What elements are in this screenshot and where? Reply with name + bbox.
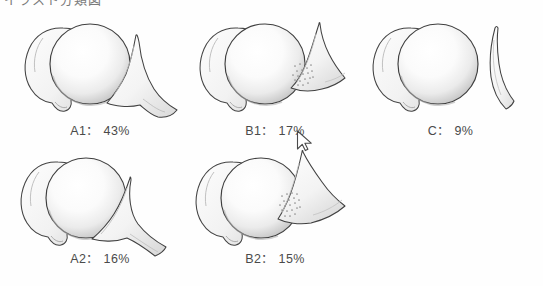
labrum-shape-c — [490, 27, 514, 110]
panel-b1[interactable]: B1： 17% — [185, 16, 365, 138]
panel-a2-label: A2： 16% — [10, 248, 190, 267]
panel-b2-label: B2： 15% — [185, 248, 365, 267]
femoral-head-sphere-b1 — [225, 24, 305, 105]
panel-b2-illustration — [185, 150, 365, 258]
panel-b2[interactable]: B2： 15% — [185, 150, 365, 275]
figure-root: イラスト分類図 — [0, 0, 543, 286]
panel-a2[interactable]: A2： 16% — [10, 150, 190, 275]
femoral-head-sphere-c — [398, 24, 478, 105]
panel-b1-label: B1： 17% — [185, 120, 365, 139]
panel-a1-illustration — [10, 16, 190, 122]
panel-c[interactable]: C： 9% — [358, 16, 543, 138]
panel-a1-label: A1： 43% — [10, 120, 190, 139]
clipped-header-label: イラスト分類図 — [4, 0, 102, 8]
panel-c-label: C： 9% — [358, 120, 543, 139]
panel-b1-illustration — [185, 16, 365, 122]
panel-a2-illustration — [10, 150, 190, 258]
panel-a1[interactable]: A1： 43% — [10, 16, 190, 138]
panel-c-illustration — [358, 16, 543, 122]
clipped-header-text: イラスト分類図 — [0, 0, 543, 9]
